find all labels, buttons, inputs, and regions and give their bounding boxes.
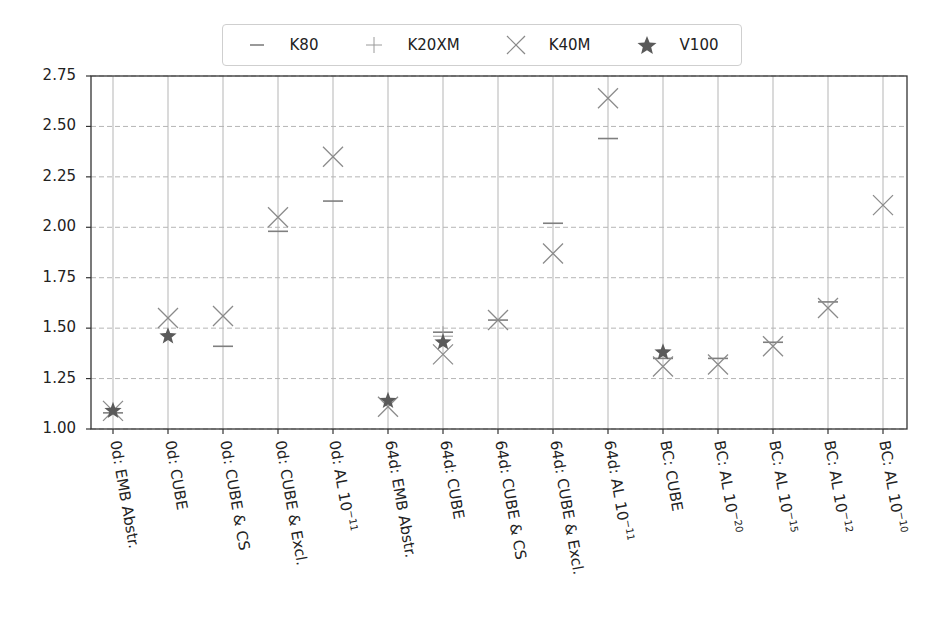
y-tick-label: 1.75 [6, 268, 76, 286]
y-tick-label: 2.00 [6, 217, 76, 235]
plot-frame [91, 76, 907, 429]
y-tick-label: 1.00 [6, 419, 76, 437]
y-tick-label: 1.25 [6, 369, 76, 387]
y-tick-label: 2.50 [6, 116, 76, 134]
y-tick-label: 2.75 [6, 66, 76, 84]
y-tick-label: 1.50 [6, 318, 76, 336]
y-tick-label: 2.25 [6, 167, 76, 185]
